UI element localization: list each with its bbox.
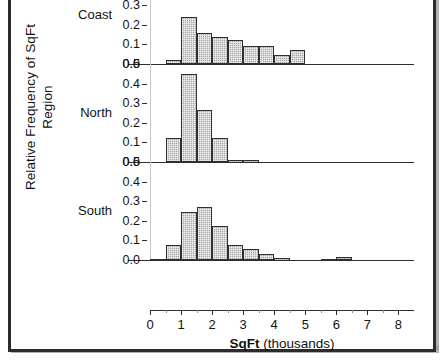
y-axis-tick — [142, 201, 147, 202]
x-axis-line — [150, 310, 414, 311]
x-axis-tick-label: 2 — [202, 317, 222, 332]
bar — [181, 17, 197, 64]
x-axis-tick-major — [212, 310, 213, 315]
bar-group-north — [150, 64, 414, 162]
y-axis-tick — [142, 162, 150, 163]
x-axis-tick-label: 0 — [140, 317, 160, 332]
panel-south — [150, 162, 414, 260]
y-axis-tick — [142, 25, 147, 26]
y-axis-tick-label: 0.5 — [123, 58, 140, 70]
y-axis-tick — [142, 103, 147, 104]
panel-coast — [150, 0, 414, 64]
y-axis-tick-label: 0.1 — [123, 136, 140, 148]
y-axis-tick-label: 0.2 — [123, 19, 140, 31]
bar — [212, 37, 228, 64]
bar — [181, 212, 197, 260]
x-axis-tick-label: 6 — [326, 317, 346, 332]
panel-separator — [128, 260, 414, 261]
bar — [274, 55, 290, 64]
x-axis-tick-minor — [228, 310, 229, 313]
bar — [197, 207, 213, 260]
bar — [228, 40, 244, 64]
y-axis-tick — [142, 84, 147, 85]
bar — [290, 50, 306, 64]
panel-label-south: South — [78, 203, 112, 218]
y-axis-tick — [142, 5, 147, 6]
y-axis-tick-label: 0.3 — [123, 97, 140, 109]
y-axis-tick — [142, 260, 150, 261]
y-axis-title: Relative Frequency of SqFt Region — [22, 0, 56, 222]
bar — [228, 245, 244, 260]
y-axis-tick — [142, 240, 147, 241]
x-axis-title-bold: SqFt — [229, 336, 259, 351]
y-axis-tick-label: 0.4 — [123, 78, 140, 90]
bar-group-coast — [150, 0, 414, 64]
bar — [212, 226, 228, 260]
panel-north — [150, 64, 414, 162]
y-axis-tick — [142, 44, 147, 45]
bar — [197, 33, 213, 64]
bar — [243, 46, 259, 64]
x-axis-tick-minor — [166, 310, 167, 313]
y-axis-tick-label: 0.5 — [123, 156, 140, 168]
bar — [181, 74, 197, 162]
x-axis-title: SqFt (thousands) — [150, 336, 414, 351]
histogram-panels — [150, 0, 414, 310]
y-axis-tick — [142, 142, 147, 143]
panel-label-north: North — [80, 105, 112, 120]
x-axis-tick-label: 4 — [264, 317, 284, 332]
x-axis-tick-major — [150, 310, 151, 315]
x-axis-tick-minor — [321, 310, 322, 313]
y-axis-tick-label: 0.2 — [123, 215, 140, 227]
panel-label-coast: Coast — [78, 7, 112, 22]
y-axis-tick-label: 0.3 — [123, 0, 140, 11]
x-axis-tick-major — [274, 310, 275, 315]
x-axis-tick-minor — [197, 310, 198, 313]
bar — [259, 46, 275, 64]
x-axis-tick-major — [243, 310, 244, 315]
x-axis-tick-minor — [352, 310, 353, 313]
x-axis-tick-major — [336, 310, 337, 315]
x-axis-tick-major — [398, 310, 399, 315]
y-axis-tick-label: 0.4 — [123, 176, 140, 188]
y-axis-tick-label: 0.1 — [123, 234, 140, 246]
y-axis-tick-label: 0.0 — [123, 254, 140, 266]
bar-group-south — [150, 162, 414, 260]
y-axis-tick — [142, 123, 147, 124]
x-axis-title-rest: (thousands) — [259, 336, 334, 351]
y-axis-tick-label: 0.2 — [123, 117, 140, 129]
x-axis-tick-major — [305, 310, 306, 315]
x-axis-tick-label: 8 — [388, 317, 408, 332]
bar — [197, 110, 213, 162]
x-axis-tick-label: 1 — [171, 317, 191, 332]
x-axis-tick-minor — [259, 310, 260, 313]
x-axis-tick-major — [367, 310, 368, 315]
bar — [166, 138, 182, 162]
y-axis-title-line2: Region — [39, 0, 56, 222]
y-axis-title-line1: Relative Frequency of SqFt — [23, 24, 38, 190]
x-axis-tick-minor — [290, 310, 291, 313]
bar — [166, 245, 182, 260]
y-axis-tick — [142, 64, 150, 65]
y-axis-tick-label: 0.1 — [123, 38, 140, 50]
x-axis-tick-minor — [383, 310, 384, 313]
x-axis-tick-label: 7 — [357, 317, 377, 332]
x-axis-tick-label: 3 — [233, 317, 253, 332]
x-axis-tick-major — [181, 310, 182, 315]
y-axis-tick-label: 0.3 — [123, 195, 140, 207]
y-axis-tick — [142, 182, 147, 183]
x-axis-tick-label: 5 — [295, 317, 315, 332]
bar — [243, 249, 259, 260]
bar — [212, 138, 228, 163]
y-axis-tick — [142, 221, 147, 222]
